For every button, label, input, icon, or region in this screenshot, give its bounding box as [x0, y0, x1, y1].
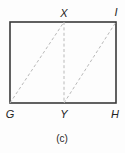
geometry-canvas — [0, 0, 125, 153]
rectangle-outline — [10, 22, 116, 103]
geometry-figure: X I G Y H (c) — [0, 0, 125, 153]
figure-caption: (c) — [56, 134, 68, 144]
dashed-segment-G-X — [10, 22, 64, 103]
dashed-segment-Y-I — [64, 22, 116, 103]
vertex-label-g: G — [6, 109, 15, 120]
vertex-label-h: H — [111, 109, 119, 120]
vertex-label-x: X — [60, 8, 67, 19]
vertex-label-i: I — [114, 7, 117, 18]
vertex-label-y: Y — [60, 109, 67, 120]
